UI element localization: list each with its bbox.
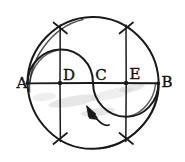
geometry-figure: A D C E B bbox=[0, 0, 185, 162]
dot-e bbox=[124, 81, 128, 85]
figure-canvas: A D C E B bbox=[0, 0, 185, 162]
label-point-b: B bbox=[161, 73, 172, 91]
label-point-c: C bbox=[95, 66, 106, 84]
label-point-e: E bbox=[130, 65, 141, 83]
label-point-a: A bbox=[16, 74, 28, 92]
dot-b bbox=[156, 81, 160, 85]
dot-d bbox=[58, 81, 62, 85]
label-point-d: D bbox=[63, 66, 75, 84]
